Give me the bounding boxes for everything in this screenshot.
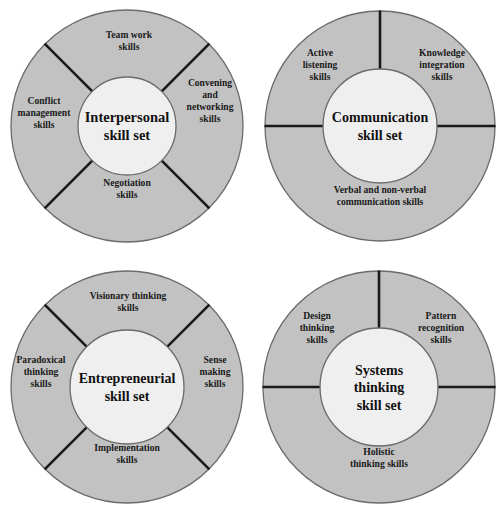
- center-title-systems-thinking: Systemsthinkingskill set: [354, 363, 405, 413]
- segment-label-line: skills: [119, 41, 140, 52]
- center-title-line: thinking: [354, 380, 405, 395]
- segment-label-line: thinking: [300, 322, 335, 333]
- segment-label-line: management: [18, 107, 72, 118]
- center-title-line: skill set: [357, 398, 402, 413]
- segment-label-line: Team work: [106, 29, 153, 40]
- segment-label-line: communication skills: [337, 196, 424, 207]
- segment-label-line: Design: [303, 310, 331, 321]
- segment-label-line: Holistic: [363, 446, 395, 457]
- wheel-diagram-systems-thinking: DesignthinkingskillsPatternrecognitionsk…: [252, 260, 504, 520]
- segment-label-line: skills: [118, 302, 139, 313]
- segment-label-verbal-non-verbal-communication: Verbal and non-verbalcommunication skill…: [334, 184, 427, 207]
- segment-label-line: recognition: [418, 322, 465, 333]
- segment-label-line: networking: [187, 101, 234, 112]
- center-title-line: skill set: [104, 127, 150, 143]
- wheel-diagram-communication: ActivelisteningskillsKnowledgeintegratio…: [252, 0, 504, 260]
- segment-label-line: skills: [117, 454, 138, 465]
- segment-label-line: skills: [34, 119, 55, 130]
- segment-label-line: skills: [205, 378, 226, 389]
- segment-label-line: skills: [200, 113, 221, 124]
- segment-label-line: Visionary thinking: [90, 290, 167, 301]
- segment-label-line: Paradoxical: [16, 354, 65, 365]
- center-title-line: Communication: [332, 110, 429, 125]
- segment-label-line: integration: [419, 59, 465, 70]
- center-title-line: skill set: [358, 128, 403, 143]
- segment-label-line: skills: [117, 189, 138, 200]
- center-hub: [70, 330, 184, 444]
- segment-label-line: Knowledge: [419, 47, 466, 58]
- segment-label-line: Convening: [188, 77, 232, 88]
- center-hub: [323, 69, 437, 183]
- center-title-line: Entrepreneurial: [79, 371, 176, 386]
- segment-label-line: skills: [310, 71, 331, 82]
- center-title-line: Interpersonal: [85, 109, 170, 125]
- segment-label-line: making: [200, 366, 231, 377]
- segment-label-line: Conflict: [27, 95, 61, 106]
- segment-label-line: skills: [307, 334, 328, 345]
- segment-label-line: thinking skills: [350, 458, 408, 469]
- segment-label-line: Negotiation: [103, 177, 151, 188]
- segment-label-line: skills: [431, 334, 452, 345]
- segment-label-line: Sense: [204, 354, 228, 365]
- center-hub: [78, 77, 176, 175]
- skill-set-diagram-grid: Team workskillsConveningandnetworkingski…: [0, 0, 504, 520]
- center-title-line: Systems: [355, 363, 404, 378]
- segment-label-line: Pattern: [426, 310, 458, 321]
- center-title-line: skill set: [105, 389, 150, 404]
- segment-label-line: and: [202, 89, 218, 100]
- segment-label-line: skills: [31, 378, 52, 389]
- segment-label-line: skills: [432, 71, 453, 82]
- segment-label-line: listening: [303, 59, 338, 70]
- wheel-diagram-entrepreneurial: Visionary thinkingskillsSensemakingskill…: [0, 260, 252, 520]
- wheel-diagram-interpersonal: Team workskillsConveningandnetworkingski…: [0, 0, 252, 260]
- segment-label-line: Active: [307, 47, 334, 58]
- segment-label-line: Verbal and non-verbal: [334, 184, 427, 195]
- segment-label-line: thinking: [24, 366, 59, 377]
- segment-label-line: Implementation: [94, 442, 160, 453]
